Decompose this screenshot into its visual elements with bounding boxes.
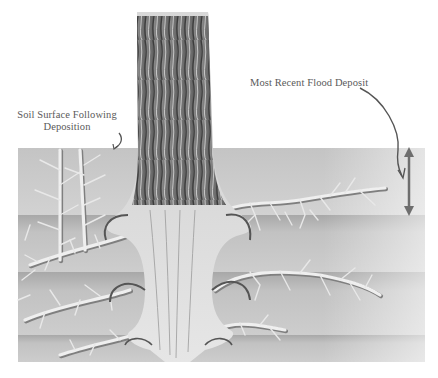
- flood-deposit-illustration: [0, 0, 438, 378]
- soil-surface-label-line1: Soil Surface Following: [6, 109, 128, 121]
- soil-surface-label: Soil Surface Following Deposition: [6, 109, 128, 133]
- soil-surface-label-line2: Deposition: [6, 121, 128, 133]
- soil-surface-pointer-icon: [113, 133, 121, 149]
- flood-deposit-label: Most Recent Flood Deposit: [250, 77, 368, 89]
- diagram-canvas: Soil Surface Following Deposition Most R…: [0, 0, 438, 378]
